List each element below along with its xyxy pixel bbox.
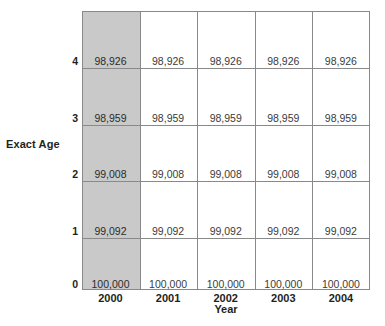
age-tick-2: 2 <box>60 169 78 180</box>
cell-value: 98,959 <box>312 113 369 124</box>
year-tick-2001: 2001 <box>140 292 197 304</box>
cell-value: 98,926 <box>312 56 369 67</box>
cell-value: 99,092 <box>82 226 139 237</box>
grid-vline-2 <box>197 12 198 289</box>
cell-value: 99,092 <box>312 226 369 237</box>
year-tick-2000: 2000 <box>82 292 139 304</box>
cell-value: 100,000 <box>312 279 369 290</box>
cell-value: 98,959 <box>140 113 197 124</box>
grid-hline-age4 <box>83 68 369 69</box>
cell-value: 98,959 <box>197 113 254 124</box>
cell-value: 98,926 <box>140 56 197 67</box>
grid-hline-age2 <box>83 181 369 182</box>
cell-value: 98,959 <box>255 113 312 124</box>
year-tick-2004: 2004 <box>312 292 369 304</box>
x-axis-title: Year <box>82 303 370 315</box>
cell-value: 100,000 <box>82 279 139 290</box>
age-tick-1: 1 <box>60 226 78 237</box>
cell-value: 98,926 <box>197 56 254 67</box>
cell-value: 99,008 <box>82 169 139 180</box>
cell-value: 98,959 <box>82 113 139 124</box>
grid-vline-3 <box>255 12 256 289</box>
chart-root: Exact Age Year 498,92698,92698,92698,926… <box>0 0 385 326</box>
cell-value: 100,000 <box>255 279 312 290</box>
year-tick-2002: 2002 <box>197 292 254 304</box>
cell-value: 99,092 <box>197 226 254 237</box>
cell-value: 100,000 <box>197 279 254 290</box>
cell-value: 100,000 <box>140 279 197 290</box>
highlight-column-2000 <box>83 12 140 289</box>
cell-value: 98,926 <box>82 56 139 67</box>
cell-value: 99,008 <box>255 169 312 180</box>
lexis-grid <box>82 11 370 290</box>
cell-value: 99,092 <box>140 226 197 237</box>
grid-hline-age3 <box>83 125 369 126</box>
grid-vline-4 <box>312 12 313 289</box>
cell-value: 99,008 <box>312 169 369 180</box>
age-tick-0: 0 <box>60 279 78 290</box>
age-tick-4: 4 <box>60 56 78 67</box>
year-tick-2003: 2003 <box>255 292 312 304</box>
y-axis-title: Exact Age <box>6 138 78 150</box>
cell-value: 99,092 <box>255 226 312 237</box>
grid-hline-age1 <box>83 238 369 239</box>
cell-value: 99,008 <box>197 169 254 180</box>
grid-vline-1 <box>140 12 141 289</box>
age-tick-3: 3 <box>60 113 78 124</box>
cell-value: 99,008 <box>140 169 197 180</box>
cell-value: 98,926 <box>255 56 312 67</box>
